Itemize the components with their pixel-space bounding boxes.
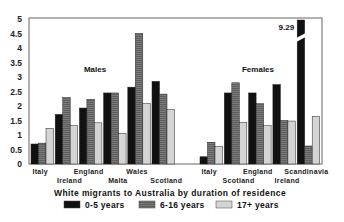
bars: 9.29 [31,20,320,164]
bar-females-england-0 [249,93,257,164]
x-category-label: Ireland [57,177,82,184]
bar-males-wales-1 [135,34,143,165]
category-labels: ItalyIrelandEnglandMaltaWalesScotlandIta… [32,168,328,184]
x-category-label: Scotland [150,177,182,184]
bar-males-wales-2 [143,104,151,164]
bar-females-scotland-0 [224,93,232,164]
y-axis: 00.511.522.533.544.55 [10,14,22,169]
legend: 0-5 years6-16 years17+ years [64,200,279,210]
bar-males-malta-2 [119,133,127,164]
bar-males-england-2 [94,123,102,164]
bar-females-scandinavia-1 [305,146,313,164]
y-tick-label: 1.5 [10,116,22,126]
bar-females-italy-2 [215,147,223,164]
group-label-males: Males [84,65,107,74]
x-category-label: Scotland [223,177,255,184]
bar-males-wales-0 [128,87,136,164]
bar-females-ireland-2 [288,121,296,164]
bar-males-england-0 [79,108,87,164]
y-tick-label: 4.5 [10,29,22,39]
x-category-label: England [243,168,273,176]
legend-label: 6-16 years [160,200,205,210]
legend-label: 17+ years [237,200,279,210]
bar-chart: 00.511.522.533.544.55 9.29 ItalyIrelandE… [0,0,344,222]
y-tick-label: 2.5 [10,87,22,97]
bar-females-italy-0 [200,157,208,164]
bar-males-england-1 [87,99,95,164]
legend-swatch [216,201,232,208]
bar-females-scotland-1 [232,83,240,164]
bar-males-scotland-0 [152,81,160,164]
bar-males-malta-0 [104,93,112,164]
x-category-label: Italy [201,168,217,176]
legend-swatch [139,201,155,208]
group-labels: MalesFemales [84,65,275,74]
x-category-label: Malta [108,177,127,184]
x-category-label: England [74,168,104,176]
bar-females-scotland-2 [239,123,247,164]
bar-males-ireland-1 [63,98,70,164]
bar-males-malta-1 [111,93,119,164]
bar-males-ireland-0 [55,114,63,164]
bar-males-italy-0 [31,144,39,164]
chart-caption: White migrants to Australia by duration … [54,188,286,198]
bar-males-italy-2 [46,128,54,164]
x-category-label: Ireland [275,177,300,184]
x-category-label: Wales [126,168,147,175]
bar-males-italy-1 [39,143,47,164]
bar-females-italy-1 [208,142,216,164]
bar-males-ireland-2 [70,125,78,164]
y-tick-label: 4 [17,43,22,53]
y-tick-label: 3 [17,72,22,82]
y-tick-label: 2 [17,101,22,111]
legend-label: 0-5 years [85,200,125,210]
group-label-females: Females [242,65,275,74]
x-category-label: Scandinavia [284,168,328,175]
bar-value-annotation: 9.29 [279,23,295,32]
bar-females-scandinavia-2 [312,116,320,164]
y-tick-label: 0 [17,159,22,169]
bar-females-england-1 [256,104,264,164]
bar-females-ireland-1 [280,121,288,165]
bar-males-scotland-2 [167,109,175,164]
y-tick-label: 5 [17,14,22,24]
y-tick-label: 1 [17,130,22,140]
bar-females-scandinavia-0 [297,20,305,164]
bar-females-ireland-0 [273,85,281,164]
legend-swatch [64,201,80,208]
y-tick-label: 3.5 [10,58,22,68]
bar-females-england-2 [264,126,272,164]
y-tick-label: 0.5 [10,145,22,155]
x-category-label: Italy [32,168,48,176]
bar-males-scotland-1 [160,94,168,164]
